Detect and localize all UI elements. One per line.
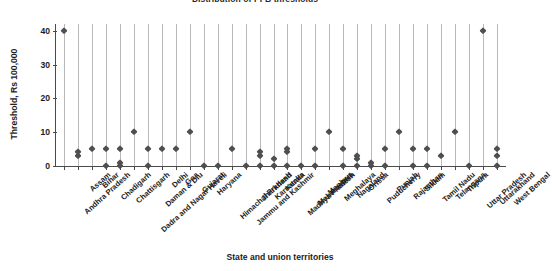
x-axis-tick <box>176 166 177 170</box>
data-point <box>451 128 459 136</box>
chart-title: Distribution of PFB thresholds <box>0 0 510 4</box>
category-gridline <box>315 24 316 166</box>
x-axis-tick <box>413 166 414 170</box>
x-axis-tick <box>399 166 400 170</box>
y-tick-label: 40 <box>40 26 50 36</box>
x-axis-tick <box>148 166 149 170</box>
y-tick-label: 10 <box>40 127 50 137</box>
x-axis-tick <box>190 166 191 170</box>
category-gridline <box>190 24 191 166</box>
y-tick-label: 30 <box>40 60 50 70</box>
category-gridline <box>469 24 470 166</box>
y-tick-mark <box>53 98 57 99</box>
x-tick-label: Sikkim <box>423 171 446 193</box>
x-axis-tick <box>441 166 442 170</box>
x-axis-title: State and union territories <box>150 252 410 262</box>
plot-area: 010203040 <box>57 24 504 166</box>
x-axis-tick <box>385 166 386 170</box>
category-gridline <box>246 24 247 166</box>
data-point <box>270 155 278 163</box>
y-tick-mark <box>53 65 57 66</box>
x-axis-tick <box>455 166 456 170</box>
x-axis-tick <box>260 166 261 170</box>
x-axis-tick <box>357 166 358 170</box>
x-axis-tick <box>427 166 428 170</box>
data-point <box>186 128 194 136</box>
y-tick-mark <box>53 31 57 32</box>
category-gridline <box>260 24 261 166</box>
data-point <box>493 152 501 160</box>
category-gridline <box>343 24 344 166</box>
data-point <box>144 145 152 153</box>
data-point <box>88 145 96 153</box>
data-point <box>102 145 110 153</box>
data-point <box>493 145 501 153</box>
x-axis-tick <box>274 166 275 170</box>
data-point <box>395 128 403 136</box>
x-axis-tick <box>483 166 484 170</box>
data-point <box>116 145 124 153</box>
x-axis-tick <box>78 166 79 170</box>
x-axis-tick <box>371 166 372 170</box>
x-axis-tick <box>106 166 107 170</box>
data-point <box>228 145 236 153</box>
x-axis-tick <box>315 166 316 170</box>
x-axis-tick <box>92 166 93 170</box>
x-axis-tick <box>64 166 65 170</box>
data-point <box>60 27 68 35</box>
x-axis-tick <box>232 166 233 170</box>
x-axis-tick <box>301 166 302 170</box>
y-tick-label: 20 <box>40 93 50 103</box>
x-axis-tick <box>134 166 135 170</box>
category-gridline <box>218 24 219 166</box>
category-gridline <box>329 24 330 166</box>
x-axis-tick <box>329 166 330 170</box>
y-tick-mark <box>53 166 57 167</box>
category-gridline <box>301 24 302 166</box>
data-point <box>130 128 138 136</box>
data-point <box>340 145 348 153</box>
category-gridline <box>78 24 79 166</box>
category-gridline <box>441 24 442 166</box>
category-gridline <box>134 24 135 166</box>
x-axis-tick <box>343 166 344 170</box>
data-point <box>437 152 445 160</box>
category-gridline <box>204 24 205 166</box>
category-gridline <box>455 24 456 166</box>
category-gridline <box>483 24 484 166</box>
y-tick-label: 0 <box>45 161 50 171</box>
x-axis-tick <box>287 166 288 170</box>
x-axis-tick <box>120 166 121 170</box>
data-point <box>172 145 180 153</box>
data-point <box>312 145 320 153</box>
data-point <box>423 145 431 153</box>
y-axis-title: Threshold, Rs 100,000 <box>9 24 19 164</box>
data-point <box>158 145 166 153</box>
y-axis-line <box>55 24 56 167</box>
data-point <box>381 145 389 153</box>
category-gridline <box>274 24 275 166</box>
category-gridline <box>357 24 358 166</box>
data-point <box>479 27 487 35</box>
category-gridline <box>64 24 65 166</box>
x-axis-tick <box>246 166 247 170</box>
x-axis-tick <box>218 166 219 170</box>
category-gridline <box>287 24 288 166</box>
data-point <box>326 128 334 136</box>
category-gridline <box>371 24 372 166</box>
x-axis-tick <box>469 166 470 170</box>
category-gridline <box>399 24 400 166</box>
x-axis-tick <box>497 166 498 170</box>
y-tick-mark <box>53 132 57 133</box>
data-point <box>409 145 417 153</box>
x-axis-tick <box>162 166 163 170</box>
x-axis-tick <box>204 166 205 170</box>
